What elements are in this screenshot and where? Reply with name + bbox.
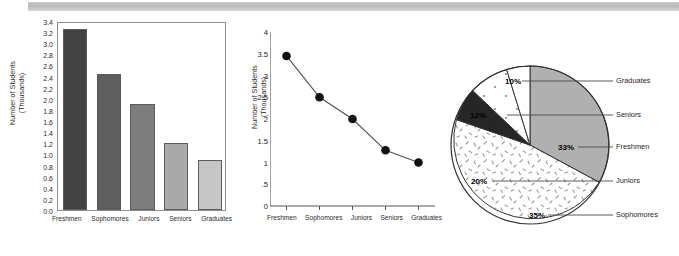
bar-chart-y-tick-label: 0.6 bbox=[43, 174, 53, 181]
line-chart: Number of Students (Thousands) 43.532.52… bbox=[240, 14, 445, 246]
pie-label-sophomores-percent: 35% bbox=[529, 211, 545, 220]
bar-chart-x-tick-label: Sophomores bbox=[91, 215, 128, 222]
bar-chart-y-tick-labels: 3.43.23.02.82.62.42.22.01.81.61.41.21.00… bbox=[27, 22, 53, 211]
pie-chart-graphic bbox=[445, 14, 679, 256]
line-chart-series-line bbox=[287, 56, 419, 163]
line-chart-y-tick-label: 0 bbox=[264, 202, 268, 211]
bar-chart-x-tick-label: Juniors bbox=[138, 215, 159, 222]
pie-legend-sophomores: Sophomores bbox=[616, 210, 658, 219]
bar-chart-y-axis-title-line2: (Thousands) bbox=[17, 38, 26, 148]
bar-chart-y-tick-label: 2.2 bbox=[43, 85, 53, 92]
bar-chart-bar bbox=[198, 160, 222, 210]
line-chart-y-tick-label: 1.5 bbox=[257, 136, 268, 145]
bar-chart-y-tick-label: 1.2 bbox=[43, 141, 53, 148]
bar-chart-y-tick-label: 1.0 bbox=[43, 152, 53, 159]
bar-chart-y-tick-label: 2.6 bbox=[43, 63, 53, 70]
bar-chart-y-axis-title-line1: Number of Students bbox=[8, 38, 17, 148]
pie-legend-graduates: Graduates bbox=[616, 76, 651, 85]
bar-chart-y-tick-label: 2.0 bbox=[43, 96, 53, 103]
line-chart-data-point bbox=[348, 115, 357, 124]
bar-chart-y-axis-title: Number of Students (Thousands) bbox=[8, 38, 26, 148]
line-chart-x-tick-labels: FreshmenSophomoresJuniorsSeniorsGraduate… bbox=[267, 214, 442, 221]
pie-label-freshmen-percent: 33% bbox=[558, 143, 574, 152]
bar-chart-y-tick-label: 0.8 bbox=[43, 163, 53, 170]
bar-chart-x-tick-labels: FreshmenSophomoresJuniorsSeniorsGraduate… bbox=[52, 215, 232, 222]
bar-chart-y-tick-label: 3.2 bbox=[43, 30, 53, 37]
line-chart-y-tick-labels: 43.532.521.51.50 bbox=[248, 32, 268, 206]
line-chart-y-tick-label: 2 bbox=[264, 115, 268, 124]
line-chart-x-tick-label: Graduates bbox=[411, 214, 442, 221]
bar-chart-y-tick-label: 1.6 bbox=[43, 119, 53, 126]
line-chart-y-tick-label: .5 bbox=[262, 180, 268, 189]
bar-chart-bar bbox=[130, 104, 154, 210]
line-chart-y-tick-label: 2.5 bbox=[257, 93, 268, 102]
line-chart-graphic bbox=[270, 32, 445, 218]
line-chart-y-tick-label: 1 bbox=[264, 158, 268, 167]
line-chart-y-tick-label: 3 bbox=[264, 71, 268, 80]
line-chart-plot-area bbox=[270, 32, 435, 206]
pie-legend-juniors: Juniors bbox=[616, 176, 640, 185]
bar-chart-y-tick-label: 3.0 bbox=[43, 41, 53, 48]
bar-chart-bar bbox=[164, 143, 188, 210]
bar-chart-bar bbox=[97, 74, 121, 210]
line-chart-data-point bbox=[282, 52, 291, 61]
bar-chart-x-tick-label: Graduates bbox=[201, 215, 232, 222]
line-chart-y-tick-label: 3.5 bbox=[257, 49, 268, 58]
line-chart-x-tick-label: Juniors bbox=[351, 214, 372, 221]
bar-chart-plot-area bbox=[57, 22, 226, 211]
pie-label-graduates-percent: 10% bbox=[505, 77, 521, 86]
pie-chart: 10% 12% 33% 20% 35% Graduates Seniors Fr… bbox=[445, 14, 679, 256]
pie-legend-seniors: Seniors bbox=[616, 110, 641, 119]
bar-chart-y-tick-label: 0.4 bbox=[43, 185, 53, 192]
line-chart-data-point bbox=[414, 158, 423, 167]
bar-chart: Number of Students (Thousands) 3.43.23.0… bbox=[0, 14, 240, 246]
line-chart-data-point bbox=[315, 93, 324, 102]
bar-chart-y-tick-label: 2.8 bbox=[43, 52, 53, 59]
bar-chart-y-tick-label: 2.4 bbox=[43, 74, 53, 81]
bar-chart-x-tick-label: Seniors bbox=[169, 215, 191, 222]
line-chart-data-point bbox=[381, 146, 390, 155]
figure-canvas: Number of Students (Thousands) 3.43.23.0… bbox=[0, 0, 679, 256]
line-chart-y-tick-label: 4 bbox=[264, 28, 268, 37]
bar-chart-y-tick-label: 1.8 bbox=[43, 107, 53, 114]
line-chart-x-tick-label: Seniors bbox=[380, 214, 402, 221]
bar-chart-y-tick-label: 0.2 bbox=[43, 196, 53, 203]
bar-chart-y-tick-label: 1.4 bbox=[43, 130, 53, 137]
bar-chart-y-tick-label: 3.4 bbox=[43, 19, 53, 26]
pie-legend-freshmen: Freshmen bbox=[616, 142, 649, 151]
bar-chart-bar bbox=[63, 29, 87, 210]
page-top-band bbox=[28, 2, 679, 11]
pie-label-seniors-percent: 12% bbox=[470, 111, 486, 120]
line-chart-x-tick-label: Sophomores bbox=[305, 214, 342, 221]
bar-chart-y-tick-label: 0.0 bbox=[43, 208, 53, 215]
bar-chart-x-tick-label: Freshmen bbox=[52, 215, 82, 222]
line-chart-x-tick-label: Freshmen bbox=[267, 214, 297, 221]
pie-label-juniors-percent: 20% bbox=[471, 177, 487, 186]
